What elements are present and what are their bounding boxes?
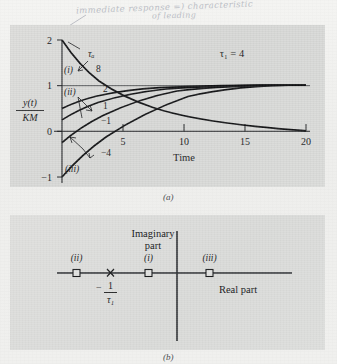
figure-caption-a: (a) (163, 192, 174, 202)
panel-a-texture (10, 25, 325, 187)
figure-panel-b: Imaginary part Real part (ii) − 1 τ₁ (10, 215, 325, 350)
figure-panel-a: 2 1 0 −1 5 10 15 20 Time y(t) KM (10, 25, 325, 187)
scanned-page: immediate response =) characteristic of … (0, 0, 337, 364)
handwritten-note-line-2: of leading (152, 10, 197, 20)
panel-b-texture (10, 215, 325, 350)
figure-caption-b: (b) (163, 352, 174, 362)
